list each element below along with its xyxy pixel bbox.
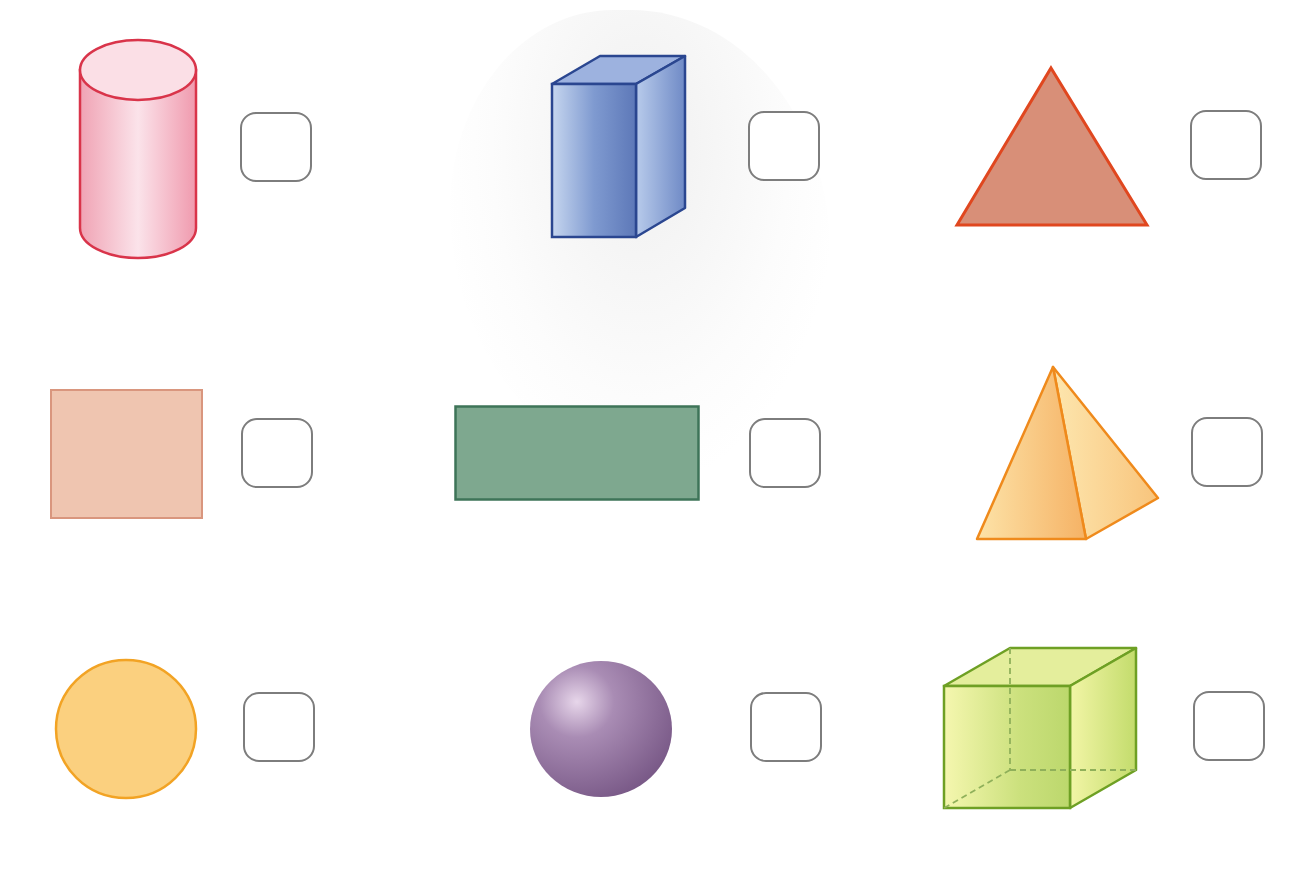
sphere-shape <box>529 660 673 798</box>
answer-box-rectangle[interactable] <box>749 418 821 488</box>
square-pyramid-icon <box>975 365 1161 541</box>
triangle-icon <box>955 66 1149 228</box>
answer-input-triangle[interactable] <box>1192 112 1264 180</box>
cube-shape <box>942 646 1138 810</box>
circle-icon <box>54 658 198 800</box>
answer-box-cylinder[interactable] <box>240 112 312 182</box>
shapes-worksheet <box>0 0 1290 878</box>
rectangular-prism-icon <box>550 55 688 240</box>
square-icon <box>50 389 203 520</box>
answer-input-rectangle[interactable] <box>751 420 823 488</box>
square-shape <box>50 389 203 520</box>
answer-input-rectangular-prism[interactable] <box>750 113 822 181</box>
answer-input-cylinder[interactable] <box>242 114 314 182</box>
cylinder-shape <box>78 38 198 260</box>
answer-input-circle[interactable] <box>245 694 317 762</box>
answer-input-cube[interactable] <box>1195 693 1267 761</box>
triangle-shape <box>955 66 1149 228</box>
answer-box-sphere[interactable] <box>750 692 822 762</box>
answer-input-square[interactable] <box>243 420 315 488</box>
rectangle-shape <box>454 405 701 501</box>
cube-icon <box>942 646 1138 810</box>
rectangle-icon <box>454 405 701 501</box>
answer-box-square-pyramid[interactable] <box>1191 417 1263 487</box>
rectangular-prism-shape <box>550 55 688 240</box>
answer-box-cube[interactable] <box>1193 691 1265 761</box>
answer-input-square-pyramid[interactable] <box>1193 419 1265 487</box>
sphere-icon <box>529 660 673 798</box>
answer-box-square[interactable] <box>241 418 313 488</box>
answer-box-circle[interactable] <box>243 692 315 762</box>
circle-shape <box>54 658 198 800</box>
square-pyramid-shape <box>975 365 1161 541</box>
answer-input-sphere[interactable] <box>752 694 824 762</box>
answer-box-triangle[interactable] <box>1190 110 1262 180</box>
answer-box-rectangular-prism[interactable] <box>748 111 820 181</box>
cylinder-icon <box>78 38 198 260</box>
